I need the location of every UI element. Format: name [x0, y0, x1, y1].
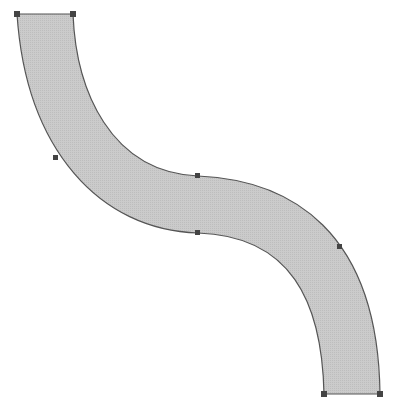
handle-bottom-left[interactable]	[321, 391, 327, 397]
handle-top-right[interactable]	[70, 11, 76, 17]
handle-left-mid[interactable]	[53, 155, 58, 160]
handle-bottom-right[interactable]	[377, 391, 383, 397]
handle-upper-center[interactable]	[195, 173, 200, 178]
s-curve-shape[interactable]	[0, 0, 399, 404]
s-curve-band[interactable]	[17, 14, 380, 394]
drawing-canvas	[0, 0, 399, 404]
handle-lower-center[interactable]	[195, 230, 200, 235]
handle-right-mid[interactable]	[337, 244, 342, 249]
handle-top-left[interactable]	[14, 11, 20, 17]
